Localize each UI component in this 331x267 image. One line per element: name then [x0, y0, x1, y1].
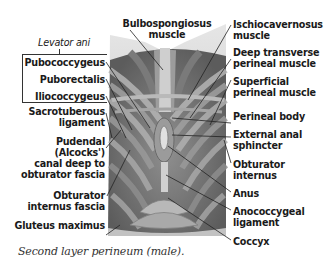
- label-line: ligament: [233, 217, 305, 228]
- anus-shape: [160, 126, 168, 150]
- label-line: muscle: [233, 30, 323, 41]
- label-iliococcygeus: Iliococcygeus: [35, 91, 105, 102]
- label-line: ligament: [29, 117, 105, 128]
- label-line: internus: [233, 170, 285, 181]
- label-line: internus fascia: [28, 201, 105, 212]
- label-obturator-internus-fascia: Obturator internus fascia: [28, 190, 105, 212]
- label-line: Obturator: [28, 190, 105, 201]
- label-levator-ani: Levator ani: [22, 37, 106, 48]
- label-line: Gluteus maximus: [15, 220, 105, 231]
- label-superficial-perineal-muscle: Superficial perineal muscle: [233, 76, 316, 98]
- label-line: Deep transverse: [233, 47, 319, 58]
- label-line: Sacrotuberous: [29, 106, 105, 117]
- label-line: Anococcygeal: [233, 206, 305, 217]
- label-coccyx: Coccyx: [233, 236, 269, 247]
- label-perineal-body: Perineal body: [233, 111, 305, 122]
- label-line: canal deep to: [21, 158, 105, 169]
- label-line: Pudendal: [21, 136, 105, 147]
- label-sacrotuberous-ligament: Sacrotuberous ligament: [29, 106, 105, 128]
- label-line: muscle: [122, 29, 212, 40]
- label-ischiocavernosus-muscle: Ischiocavernosus muscle: [233, 19, 323, 41]
- label-external-anal-sphincter: External anal sphincter: [233, 129, 302, 151]
- label-bulbospongiosus-muscle: Bulbospongiosus muscle: [122, 18, 212, 40]
- label-deep-transverse-perineal-muscle: Deep transverse perineal muscle: [233, 47, 319, 69]
- label-line: perineal muscle: [233, 58, 319, 69]
- label-line: Ischiocavernosus: [233, 19, 323, 30]
- label-line: Superficial: [233, 76, 316, 87]
- label-anus: Anus: [233, 188, 259, 199]
- label-line: Bulbospongiosus: [122, 18, 212, 29]
- label-line: sphincter: [233, 140, 302, 151]
- label-line: Perineal body: [233, 111, 305, 122]
- label-gluteus-maximus: Gluteus maximus: [15, 220, 105, 231]
- label-line: perineal muscle: [233, 87, 316, 98]
- figure-caption: Second layer perineum (male).: [18, 245, 184, 258]
- label-obturator-internus: Obturator internus: [233, 159, 285, 181]
- label-line: External anal: [233, 129, 302, 140]
- label-anococcygeal-ligament: Anococcygeal ligament: [233, 206, 305, 228]
- label-line: Anus: [233, 188, 259, 199]
- perineum-figure: Levator ani Pubococcygeus Puborectalis I…: [0, 0, 331, 267]
- label-line: obturator fascia: [21, 169, 105, 180]
- label-pubococcygeus: Pubococcygeus: [24, 57, 105, 68]
- label-puborectalis: Puborectalis: [40, 74, 105, 85]
- label-line: Coccyx: [233, 236, 269, 247]
- label-pudendal-canal: Pudendal (Alcocks') canal deep to obtura…: [21, 136, 105, 180]
- label-line: (Alcocks'): [21, 147, 105, 158]
- label-line: Obturator: [233, 159, 285, 170]
